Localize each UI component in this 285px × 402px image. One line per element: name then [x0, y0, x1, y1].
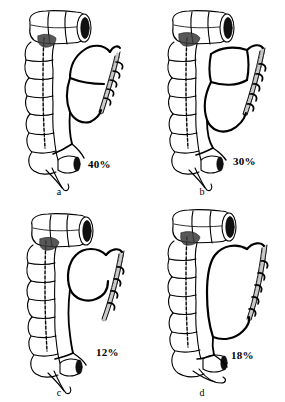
upper-arcade-loop [70, 46, 110, 78]
lower-arcade-loop [205, 82, 231, 132]
arcade-proximal-hook [106, 249, 122, 255]
haustral-septum [31, 281, 55, 283]
panel-c-percentage: 12% [96, 346, 119, 358]
haustral-septum [29, 78, 53, 80]
rectum-lumen [74, 157, 80, 171]
sigmoid-lower-curve [29, 152, 56, 174]
sigmoid-lower-curve [172, 152, 199, 174]
haustral-septum [170, 96, 196, 98]
figure-panel-c: 12% c [0, 201, 142, 402]
panel-b-caption: b [143, 186, 285, 197]
panel-a-caption: a [0, 186, 142, 197]
haustral-septum [170, 295, 196, 297]
panel-b-percentage: 30% [233, 155, 256, 167]
haustral-septum [29, 133, 54, 135]
haustral-septum [33, 151, 56, 153]
haustral-septum [27, 96, 53, 98]
marginal-artery [45, 241, 47, 351]
colon-lumen [226, 217, 234, 238]
rectum-lumen [76, 360, 82, 374]
panel-c-caption: c [0, 387, 142, 398]
haustral-septum [172, 332, 197, 334]
haustral-septum [32, 317, 55, 319]
descending-colon-right-wall [54, 247, 60, 363]
sigmoid-artery-branch [70, 112, 72, 144]
arcade-proximal-hook [247, 243, 264, 249]
sigmoid-lower-curve [172, 351, 204, 377]
panel-a-illustration [0, 0, 142, 201]
upper-arcade-bottom [211, 80, 247, 85]
haustral-septum [30, 114, 53, 116]
sigmoid-artery-branch [213, 337, 214, 355]
tall-arcade-left-limb [207, 246, 247, 337]
panel-d-caption: d [143, 387, 285, 398]
descending-colon-right-wall [52, 44, 58, 160]
haustral-septum [176, 151, 199, 153]
haustral-septum [28, 263, 55, 265]
arcade-transverse-branch [70, 78, 104, 84]
haustral-septum [172, 78, 196, 80]
panel-d-illustration [143, 201, 285, 402]
panel-a-percentage: 40% [88, 158, 111, 170]
panel-c-illustration [0, 201, 142, 402]
figure-panel-grid: 40% a [0, 0, 285, 402]
haustral-septum [31, 336, 56, 338]
haustral-septum [35, 354, 58, 356]
marginal-artery [186, 237, 188, 347]
tall-arcade-lower-limb [213, 317, 249, 339]
haustral-septum [173, 114, 196, 116]
descending-colon-right-wall [195, 44, 201, 160]
panel-c-caption-text: c [57, 387, 61, 398]
panel-d-caption-text: d [200, 387, 205, 398]
figure-panel-d: 18% d [143, 201, 285, 402]
haustral-septum [169, 259, 196, 261]
haustral-septum [173, 313, 196, 315]
colon-lumen [81, 18, 89, 39]
haustral-septum [29, 299, 55, 301]
panel-b-caption-text: b [200, 186, 205, 197]
colon-lumen [83, 221, 91, 242]
panel-a-caption-text: a [57, 186, 61, 197]
figure-panel-a: 40% a [0, 0, 142, 201]
arcade-proximal-hook [110, 46, 120, 52]
haustral-septum [169, 60, 196, 62]
descending-colon-right-wall [195, 243, 201, 359]
figure-panel-b: 30% b [143, 0, 285, 201]
marginal-artery [186, 38, 188, 148]
panel-d-percentage: 18% [231, 349, 254, 361]
colon-lumen [224, 18, 232, 39]
upper-arcade-top [211, 48, 247, 54]
haustral-septum [172, 133, 197, 135]
single-arcade-loop [68, 249, 108, 301]
sigmoid-artery-branch [69, 289, 74, 353]
haustral-septum [172, 277, 196, 279]
haustral-septum [176, 350, 200, 352]
rectum-lumen [217, 157, 223, 171]
haustral-septum [26, 60, 53, 62]
arcade-proximal-hook [247, 45, 263, 50]
sigmoid-lower-curve [31, 355, 58, 377]
marginal-artery [43, 38, 45, 148]
panel-b-illustration [143, 0, 285, 201]
upper-arcade-left [210, 54, 212, 82]
upper-arcade-right [247, 50, 249, 80]
